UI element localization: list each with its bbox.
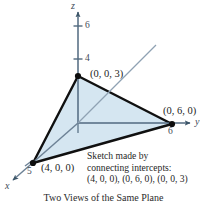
y-axis-label: y (195, 117, 199, 127)
y-intercept-label: (0, 6, 0) (163, 106, 196, 117)
sketch-note-line-3: (4, 0, 0), (0, 6, 0), (0, 0, 3) (87, 173, 207, 185)
z-axis-label: z (71, 1, 75, 11)
z-intercept-label: (0, 0, 3) (90, 69, 123, 80)
x-tick-label-5: 5 (27, 167, 32, 177)
x-axis-label: x (5, 181, 9, 191)
y-tick-label-6: 6 (168, 127, 173, 137)
sketch-note: Sketch made by connecting intercepts: (4… (87, 150, 207, 185)
z-tick-label-6: 6 (85, 21, 90, 31)
x-intercept-label: (4, 0, 0) (41, 163, 74, 174)
z-tick-label-4: 4 (85, 54, 90, 64)
vertex-dot-z-intercept (75, 73, 81, 79)
sketch-note-line-2: connecting intercepts: (87, 162, 207, 174)
figure-container: z y x 6 4 6 5 (0, 0, 3) (0, 6, 0) (4, 0,… (0, 0, 207, 208)
sketch-note-line-1: Sketch made by (87, 150, 207, 162)
figure-caption: Two Views of the Same Plane (0, 192, 207, 203)
